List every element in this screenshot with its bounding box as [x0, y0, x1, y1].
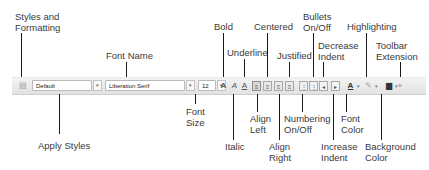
- label-italic: Italic: [225, 141, 245, 152]
- bullets-icon[interactable]: ⋮: [309, 81, 318, 91]
- label-font-color: Font Color: [341, 113, 364, 135]
- label-line: Size: [186, 117, 205, 128]
- connector-numbering: [302, 94, 303, 112]
- label-line: On/Off: [284, 124, 330, 135]
- connector-background-color: [381, 94, 382, 140]
- connector-apply-styles: [59, 94, 60, 134]
- label-justified: Justified: [277, 50, 312, 61]
- font-name-dropdown[interactable]: ▾: [186, 80, 195, 91]
- underline-icon[interactable]: A: [240, 81, 249, 91]
- label-line: Extension: [376, 51, 418, 62]
- label-line: Left: [250, 124, 271, 135]
- label-line: Color: [365, 152, 416, 163]
- styles-formatting-icon[interactable]: ▤: [18, 81, 27, 91]
- label-line: Numbering: [284, 113, 330, 124]
- label-align-left: Align Left: [250, 113, 271, 135]
- connector-italic: [233, 94, 234, 140]
- label-font-name: Font Name: [106, 50, 153, 61]
- italic-icon[interactable]: A: [230, 81, 239, 91]
- label-line: Indent: [318, 51, 359, 62]
- label-bold: Bold: [214, 21, 233, 32]
- label-font-size: Font Size: [186, 106, 205, 128]
- label-line: Font: [186, 106, 205, 117]
- apply-styles-dropdown[interactable]: ▾: [93, 80, 102, 91]
- align-left-icon[interactable]: ≡: [252, 81, 261, 91]
- highlighting-dropdown[interactable]: ▾: [375, 81, 378, 91]
- connector-bullets: [313, 33, 314, 79]
- connector-underline: [244, 59, 245, 79]
- label-decrease-indent: Decrease Indent: [318, 40, 359, 62]
- label-line: Formatting: [15, 22, 60, 33]
- connector-font-color: [346, 94, 347, 112]
- label-apply-styles: Apply Styles: [38, 140, 90, 151]
- label-background-color: Background Color: [365, 141, 416, 163]
- font-color-dropdown[interactable]: ▾: [357, 81, 360, 91]
- label-line: Toolbar: [376, 40, 418, 51]
- formatting-toolbar: ▤ Default ▾ Liberation Serif ▾ 12 ▾ A A …: [12, 77, 426, 95]
- label-line: Color: [341, 124, 364, 135]
- connector-bold: [223, 33, 224, 79]
- label-toolbar-extension: Toolbar Extension: [376, 40, 418, 62]
- connector-styles-formatting: [21, 33, 22, 79]
- label-line: Right: [269, 152, 291, 163]
- background-color-icon[interactable]: ▆: [384, 81, 393, 91]
- apply-styles-combo[interactable]: Default: [32, 80, 92, 91]
- label-centered: Centered: [254, 21, 293, 32]
- font-name-combo[interactable]: Liberation Serif: [105, 80, 185, 91]
- connector-align-left: [257, 94, 258, 112]
- font-size-combo[interactable]: 12: [198, 80, 216, 91]
- numbering-icon[interactable]: ⋮: [299, 81, 308, 91]
- connector-highlighting: [366, 33, 367, 79]
- label-align-right: Align Right: [269, 141, 291, 163]
- bold-icon[interactable]: A: [219, 81, 228, 91]
- label-line: On/Off: [303, 22, 332, 33]
- toolbar-extension-icon[interactable]: »: [397, 81, 403, 91]
- justify-icon[interactable]: ≡: [285, 81, 294, 91]
- connector-align-right: [279, 94, 280, 140]
- connector-centered: [267, 33, 268, 79]
- label-line: Align: [269, 141, 291, 152]
- label-underline: Underline: [227, 47, 268, 58]
- decrease-indent-icon[interactable]: ◂: [319, 81, 328, 91]
- increase-indent-icon[interactable]: ▸: [331, 81, 340, 91]
- label-increase-indent: Increase Indent: [321, 141, 357, 163]
- label-bullets-on-off: Bullets On/Off: [303, 11, 332, 33]
- label-highlighting: Highlighting: [347, 21, 397, 32]
- connector-font-size: [195, 94, 196, 104]
- label-numbering-on-off: Numbering On/Off: [284, 113, 330, 135]
- label-line: Background: [365, 141, 416, 152]
- label-styles-and-formatting: Styles and Formatting: [15, 11, 60, 33]
- font-color-icon[interactable]: A: [346, 81, 355, 91]
- align-right-icon[interactable]: ≡: [274, 81, 283, 91]
- label-line: Decrease: [318, 40, 359, 51]
- label-line: Align: [250, 113, 271, 124]
- connector-increase-indent: [333, 94, 334, 140]
- align-center-icon[interactable]: ≡: [263, 81, 272, 91]
- label-line: Styles and: [15, 11, 60, 22]
- label-line: Increase: [321, 141, 357, 152]
- label-line: Bullets: [303, 11, 332, 22]
- label-line: Indent: [321, 152, 357, 163]
- highlighting-icon[interactable]: ✎: [364, 81, 373, 91]
- label-line: Font: [341, 113, 364, 124]
